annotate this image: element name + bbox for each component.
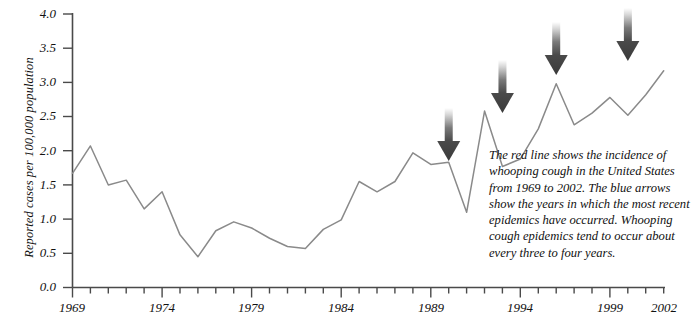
epidemic-arrow-group bbox=[437, 8, 639, 161]
epidemic-arrow-1993 bbox=[491, 60, 514, 113]
epidemic-arrow-2000 bbox=[616, 8, 639, 61]
x-tick-label-1979: 1979 bbox=[224, 300, 278, 316]
x-tick-label-1994: 1994 bbox=[493, 300, 547, 316]
y-tick-label-4-0: 4.0 bbox=[22, 6, 56, 22]
x-tick-label-1999: 1999 bbox=[583, 300, 637, 316]
y-tick-label-1-5: 1.5 bbox=[22, 177, 56, 193]
y-tick-label-2-0: 2.0 bbox=[22, 143, 56, 159]
x-axis-ticks bbox=[73, 288, 664, 298]
epidemic-arrow-1990 bbox=[437, 108, 460, 161]
chart-caption: The red line shows the incidence of whoo… bbox=[489, 147, 695, 261]
x-tick-label-1989: 1989 bbox=[404, 300, 458, 316]
chart-figure: Reported cases per 100,000 population 4.… bbox=[0, 0, 698, 323]
y-tick-label-3-0: 3.0 bbox=[22, 74, 56, 90]
x-tick-label-1974: 1974 bbox=[135, 300, 189, 316]
y-tick-label-1-0: 1.0 bbox=[22, 211, 56, 227]
y-axis-ticks bbox=[63, 14, 73, 288]
y-tick-label-3-5: 3.5 bbox=[22, 40, 56, 56]
y-tick-label-0-0: 0.0 bbox=[22, 279, 56, 295]
y-tick-label-2-5: 2.5 bbox=[22, 108, 56, 124]
epidemic-arrow-1996 bbox=[545, 22, 568, 75]
x-tick-label-2002: 2002 bbox=[637, 300, 691, 316]
x-tick-label-1969: 1969 bbox=[45, 300, 99, 316]
y-tick-label-0-5: 0.5 bbox=[22, 245, 56, 261]
x-tick-label-1984: 1984 bbox=[314, 300, 368, 316]
